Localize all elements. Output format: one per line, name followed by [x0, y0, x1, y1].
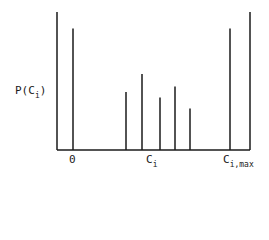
x-tick-zero: 0 [69, 154, 76, 165]
x-max-text: C [223, 153, 230, 166]
x-max-subscript: i,max [230, 160, 254, 169]
y-axis-label: P(Ci) [15, 85, 46, 97]
x-label-subscript: i [153, 160, 158, 169]
y-label-subscript: i [35, 91, 40, 100]
x-label-text: C [146, 153, 153, 166]
y-label-close: ) [40, 84, 47, 97]
x-tick-max: Ci,max [223, 154, 254, 166]
y-label-text: P(C [15, 84, 35, 97]
x-axis-label: Ci [146, 154, 157, 166]
